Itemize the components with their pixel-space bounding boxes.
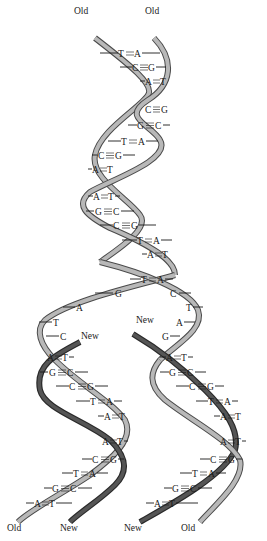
svg-text:C: C	[210, 455, 216, 465]
svg-text:A: A	[92, 165, 99, 175]
svg-text:T: T	[121, 137, 127, 147]
svg-text:T: T	[90, 397, 96, 407]
svg-text:T: T	[137, 236, 143, 246]
svg-text:C: C	[69, 382, 75, 392]
unpaired-base: C	[170, 289, 176, 299]
parental-helix	[83, 38, 175, 275]
svg-text:T: T	[208, 397, 214, 407]
label-fork-left-new: New	[81, 331, 99, 341]
fork-unpaired-bases: G A T C C T A G	[39, 289, 203, 342]
svg-text:A: A	[89, 469, 96, 479]
svg-text:G: G	[207, 382, 214, 392]
svg-text:A: A	[104, 412, 111, 422]
label-bottom-left-new: New	[60, 523, 78, 533]
base-pair: C G	[92, 151, 135, 161]
svg-text:A: A	[220, 412, 227, 422]
svg-text:G: G	[52, 484, 59, 494]
label-top-left-old: Old	[74, 6, 89, 16]
svg-text:C: C	[155, 121, 161, 131]
svg-text:A: A	[145, 77, 152, 87]
svg-text:T: T	[192, 469, 198, 479]
base-pair: A T	[146, 499, 198, 509]
svg-text:G: G	[137, 121, 144, 131]
svg-text:G: G	[161, 105, 168, 115]
unpaired-base: A	[176, 318, 183, 328]
svg-text:A: A	[166, 353, 173, 363]
svg-text:G: G	[95, 207, 102, 217]
svg-text:A: A	[154, 499, 161, 509]
svg-text:A: A	[220, 437, 227, 447]
unpaired-base: T	[186, 303, 192, 313]
base-pair: A T	[98, 412, 125, 422]
svg-text:T: T	[49, 499, 55, 509]
svg-text:G: G	[115, 151, 122, 161]
svg-text:T: T	[235, 412, 241, 422]
svg-text:A: A	[47, 353, 54, 363]
svg-text:A: A	[208, 469, 215, 479]
svg-text:C: C	[190, 484, 196, 494]
svg-text:A: A	[102, 437, 109, 447]
svg-text:C: C	[67, 368, 73, 378]
svg-text:G: G	[131, 221, 138, 231]
svg-text:T: T	[160, 77, 166, 87]
svg-text:A: A	[106, 397, 113, 407]
svg-text:A: A	[138, 137, 145, 147]
svg-text:G: G	[148, 63, 155, 73]
unpaired-base: G	[162, 332, 169, 342]
svg-text:T: T	[118, 49, 124, 59]
svg-text:A: A	[157, 275, 164, 285]
svg-text:T: T	[141, 275, 147, 285]
svg-text:T: T	[117, 437, 123, 447]
svg-text:C: C	[187, 368, 193, 378]
label-bottom-right-new: New	[124, 523, 142, 533]
svg-text:C: C	[132, 63, 138, 73]
replication-fork	[40, 262, 199, 360]
svg-text:G: G	[172, 484, 179, 494]
label-bottom-right-old: Old	[181, 523, 196, 533]
svg-text:C: C	[145, 105, 151, 115]
svg-text:T: T	[108, 192, 114, 202]
svg-text:T: T	[162, 250, 168, 260]
svg-text:C: C	[92, 455, 98, 465]
svg-text:G: G	[49, 368, 56, 378]
unpaired-base: G	[115, 289, 122, 299]
unpaired-base: C	[60, 332, 66, 342]
svg-text:C: C	[189, 382, 195, 392]
svg-text:T: T	[107, 165, 113, 175]
svg-text:A: A	[153, 236, 160, 246]
svg-text:T: T	[73, 469, 79, 479]
svg-text:A: A	[147, 250, 154, 260]
svg-text:C: C	[70, 484, 76, 494]
svg-text:C: C	[113, 207, 119, 217]
label-top-right-old: Old	[145, 6, 160, 16]
svg-text:T: T	[62, 353, 68, 363]
svg-text:G: G	[87, 382, 94, 392]
label-bottom-left-old: Old	[7, 523, 22, 533]
unpaired-base: T	[53, 318, 59, 328]
svg-text:G: G	[110, 455, 117, 465]
unpaired-base: A	[76, 303, 83, 313]
svg-text:A: A	[34, 499, 41, 509]
label-fork-right-new: New	[136, 315, 154, 325]
svg-text:T: T	[169, 499, 175, 509]
svg-text:C: C	[113, 221, 119, 231]
svg-text:A: A	[134, 49, 141, 59]
svg-text:T: T	[235, 437, 241, 447]
svg-text:A: A	[224, 397, 231, 407]
svg-text:A: A	[93, 192, 100, 202]
base-pair: T A	[108, 137, 158, 147]
strand-labels: Old Old New New Old New New Old	[7, 6, 196, 533]
svg-text:G: G	[228, 455, 235, 465]
svg-text:T: T	[181, 353, 187, 363]
base-pair: C G	[145, 105, 168, 115]
svg-text:G: G	[169, 368, 176, 378]
dna-replication-diagram: Old Old New New Old New New Old T A C G …	[0, 0, 267, 541]
svg-text:T: T	[119, 412, 125, 422]
dna-diagram-canvas: Old Old New New Old New New Old T A C G …	[0, 0, 267, 541]
svg-text:C: C	[98, 151, 104, 161]
